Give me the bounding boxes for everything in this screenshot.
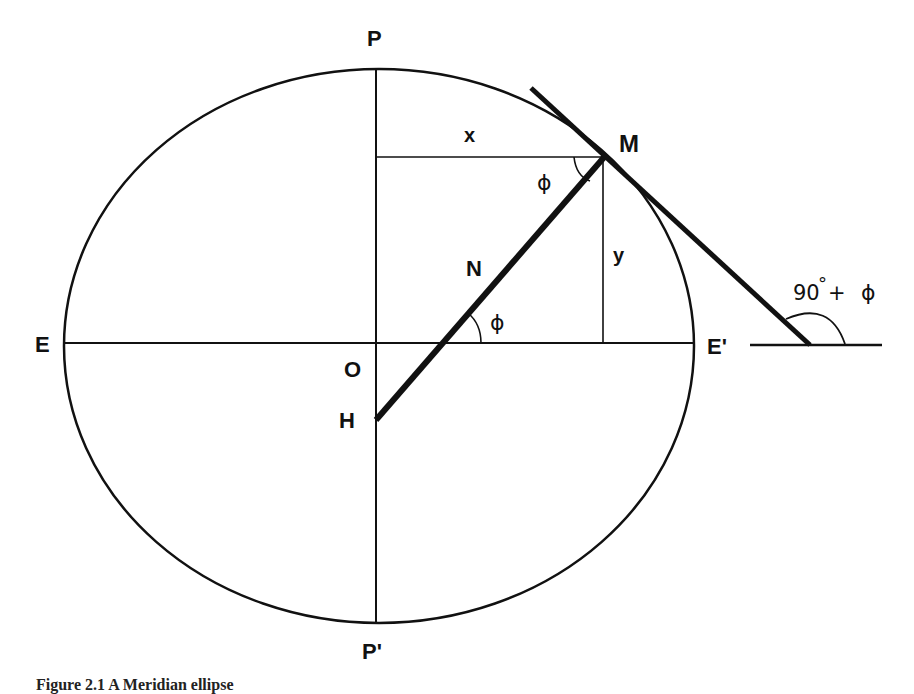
svg-text:°: ° <box>818 273 827 294</box>
label-H: H <box>339 408 355 433</box>
tangent-line <box>531 88 810 345</box>
label-x: x <box>464 124 475 146</box>
label-O: O <box>344 357 361 382</box>
label-tangent-angle: 90 ° + ϕ <box>793 273 876 305</box>
label-E: E <box>35 332 50 357</box>
angle-arc-at-equator <box>468 313 481 343</box>
label-N: N <box>466 256 482 281</box>
svg-text:90: 90 <box>793 281 820 305</box>
figure-caption: Figure 2.1 A Meridian ellipse <box>36 676 233 694</box>
svg-text:+: + <box>828 281 846 305</box>
label-phi-at-equator: ϕ <box>490 310 505 335</box>
svg-text:ϕ: ϕ <box>861 280 876 305</box>
label-P-prime: P' <box>362 639 382 664</box>
label-P: P <box>367 26 382 51</box>
label-phi-at-m: ϕ <box>537 170 552 195</box>
label-E-prime: E' <box>707 334 727 359</box>
label-y: y <box>613 244 625 266</box>
normal-line-HM <box>376 155 606 420</box>
label-M: M <box>619 130 639 157</box>
